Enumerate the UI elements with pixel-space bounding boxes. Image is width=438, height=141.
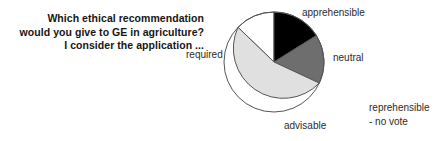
pie-chart: apprehensible neutral advisable required…: [216, 0, 438, 141]
question-line-1: Which ethical recommendation: [8, 12, 204, 26]
pie-label-advisable: advisable: [284, 120, 326, 132]
pie-label-neutral: neutral: [333, 52, 364, 64]
pie-label-apprehensible: apprehensible: [302, 7, 365, 19]
pie-chart-figure: Which ethical recommendation would you g…: [0, 0, 438, 141]
legend-line-2: - no vote: [369, 115, 430, 129]
question-line-3: I consider the application ...: [8, 39, 204, 53]
question-text: Which ethical recommendation would you g…: [8, 12, 204, 53]
pie-label-required: required: [186, 49, 223, 61]
question-line-2: would you give to GE in agriculture?: [8, 26, 204, 40]
legend-line-1: reprehensible: [369, 101, 430, 115]
legend-reprehensible-no-vote: reprehensible - no vote: [369, 101, 430, 129]
